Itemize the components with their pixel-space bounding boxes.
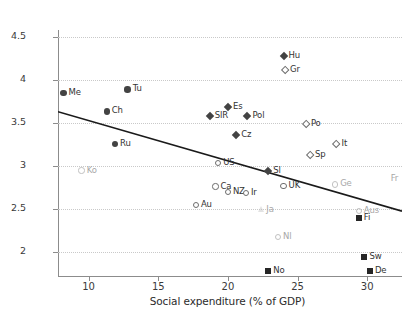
circle-open-marker-icon xyxy=(332,181,338,187)
square-filled-marker-icon xyxy=(361,254,367,260)
data-point-label: Hu xyxy=(289,50,300,60)
data-point-label: Sw xyxy=(369,251,381,261)
x-tick-label: 25 xyxy=(283,281,313,292)
y-tick-label: 2.5 xyxy=(0,202,26,213)
x-tick-label: 30 xyxy=(352,281,382,292)
data-point-label: Ru xyxy=(120,138,131,148)
triangle-open-marker-icon xyxy=(258,206,264,212)
data-point-label: Nl xyxy=(283,231,291,241)
data-point-label: Au xyxy=(201,199,212,209)
data-point-label: Pol xyxy=(252,110,264,120)
data-point-label: Gr xyxy=(290,64,300,74)
y-tick-label: 4.5 xyxy=(0,30,26,41)
data-point-label: No xyxy=(273,265,284,275)
y-tick-label: 4 xyxy=(0,73,26,84)
data-point-label: UK xyxy=(289,180,301,190)
data-point-label: Sl xyxy=(273,165,280,175)
data-point-label: Ge xyxy=(340,178,352,188)
data-point-label: Aus xyxy=(364,205,379,215)
trend-line xyxy=(58,24,402,276)
data-point-label: Ir xyxy=(251,187,257,197)
circle-filled-marker-icon xyxy=(104,108,110,114)
circle-open-marker-icon xyxy=(212,183,218,189)
square-filled-marker-icon xyxy=(367,268,373,274)
data-point-label: US xyxy=(223,157,234,167)
data-point-label: Ch xyxy=(112,105,123,115)
circle-filled-marker-icon xyxy=(124,86,130,92)
x-tick-label: 15 xyxy=(143,281,173,292)
y-tick-label: 3.5 xyxy=(0,116,26,127)
scatter-chart: % population finding it difficult to liv… xyxy=(0,0,405,316)
square-filled-marker-icon xyxy=(356,215,362,221)
data-point-label: Es xyxy=(233,101,243,111)
y-tick-label: 2 xyxy=(0,245,26,256)
data-point-label: Ko xyxy=(87,165,97,175)
data-point-label: De xyxy=(375,265,386,275)
data-point-label: Tu xyxy=(133,83,142,93)
circle-open-marker-icon xyxy=(280,183,286,189)
data-point-label: Me xyxy=(69,87,81,97)
x-tick-label: 10 xyxy=(74,281,104,292)
data-point-label: Sp xyxy=(315,149,326,159)
y-tick-label: 3 xyxy=(0,159,26,170)
x-axis-line xyxy=(58,276,402,277)
data-point-label: SlR xyxy=(215,110,228,120)
data-point-label: It xyxy=(342,138,348,148)
square-filled-marker-icon xyxy=(265,268,271,274)
data-point-label: Po xyxy=(311,118,321,128)
circle-open-marker-icon xyxy=(78,167,84,173)
data-point-label: Cz xyxy=(241,129,251,139)
plot-area: MeKoChRuTuAuSlRCaUSNZEsCzPolIrJaSlNoNlHu… xyxy=(58,24,402,276)
data-point-label: Ja xyxy=(266,204,273,214)
x-axis-title: Social expenditure (% of GDP) xyxy=(55,295,400,307)
data-point-label: Fr xyxy=(391,173,398,183)
x-tick-label: 20 xyxy=(213,281,243,292)
